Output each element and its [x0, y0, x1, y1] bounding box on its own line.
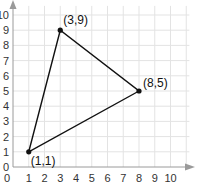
- vertex-label: (1,1): [31, 154, 56, 168]
- y-tick-label: 0: [3, 161, 9, 173]
- vertex-label: (8,5): [143, 76, 168, 90]
- y-tick-label: 5: [3, 85, 9, 97]
- x-tick-label: 3: [57, 172, 63, 184]
- y-tick-label: 7: [3, 55, 9, 67]
- y-axis-arrow-icon: [10, 0, 17, 9]
- x-tick-label: 8: [136, 172, 142, 184]
- x-tick-label: 5: [89, 172, 95, 184]
- x-tick-label: 9: [152, 172, 158, 184]
- vertex-point: [58, 28, 63, 33]
- y-tick-label: 6: [3, 70, 9, 82]
- x-tick-labels: 012345678910: [4, 172, 177, 184]
- x-tick-label: 1: [26, 172, 32, 184]
- vertex-point: [136, 88, 141, 93]
- y-tick-label: 4: [3, 100, 9, 112]
- y-tick-label: 9: [3, 24, 9, 36]
- y-tick-label: 3: [3, 115, 9, 127]
- x-tick-label: 6: [104, 172, 110, 184]
- y-tick-labels: 012345678910: [0, 9, 9, 173]
- y-tick-label: 10: [0, 9, 9, 21]
- y-tick-label: 1: [3, 146, 9, 158]
- y-tick-label: 8: [3, 39, 9, 51]
- x-tick-label: 10: [164, 172, 176, 184]
- vertex-label: (3,9): [63, 13, 88, 27]
- coordinate-plane-chart: 012345678910 012345678910 (1,1)(3,9)(8,5…: [0, 0, 197, 186]
- x-tick-label: 0: [4, 172, 10, 184]
- x-tick-label: 2: [41, 172, 47, 184]
- y-tick-label: 2: [3, 131, 9, 143]
- x-axis-arrow-icon: [185, 164, 195, 171]
- x-tick-label: 4: [73, 172, 79, 184]
- x-tick-label: 7: [120, 172, 126, 184]
